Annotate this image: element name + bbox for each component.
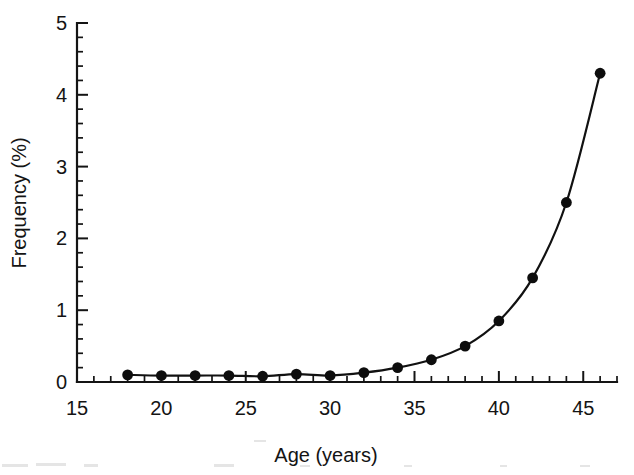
y-axis-tick-labels: 012345 (56, 12, 67, 393)
data-point (392, 362, 403, 373)
x-axis-title: Age (years) (274, 444, 377, 466)
x-tick-label: 45 (572, 397, 594, 419)
data-point (493, 316, 504, 327)
x-tick-label: 35 (403, 397, 425, 419)
data-point (291, 369, 302, 380)
y-axis-ticks (77, 23, 88, 382)
x-axis-tick-labels: 15202530354045 (66, 397, 595, 419)
data-point (358, 367, 369, 378)
data-point (257, 371, 268, 382)
axes-lines (77, 23, 617, 382)
data-point (156, 370, 167, 381)
x-tick-label: 30 (319, 397, 341, 419)
data-point (561, 197, 572, 208)
data-point (426, 354, 437, 365)
data-point (460, 341, 471, 352)
data-point (190, 370, 201, 381)
x-tick-label: 15 (66, 397, 88, 419)
data-point (325, 370, 336, 381)
data-series-line (128, 73, 601, 376)
y-tick-label: 5 (56, 12, 67, 34)
y-tick-label: 2 (56, 227, 67, 249)
y-tick-label: 4 (56, 84, 67, 106)
data-point (223, 370, 234, 381)
y-tick-label: 1 (56, 299, 67, 321)
data-point (527, 272, 538, 283)
y-tick-label: 3 (56, 156, 67, 178)
x-tick-label: 40 (488, 397, 510, 419)
x-tick-label: 25 (235, 397, 257, 419)
y-axis-title: Frequency (%) (8, 137, 30, 268)
data-point (122, 369, 133, 380)
data-series-markers (122, 68, 605, 382)
y-tick-label: 0 (56, 371, 67, 393)
data-point (595, 68, 606, 79)
chart-svg: 012345 15202530354045 Age (years) Freque… (0, 0, 634, 475)
x-tick-label: 20 (150, 397, 172, 419)
